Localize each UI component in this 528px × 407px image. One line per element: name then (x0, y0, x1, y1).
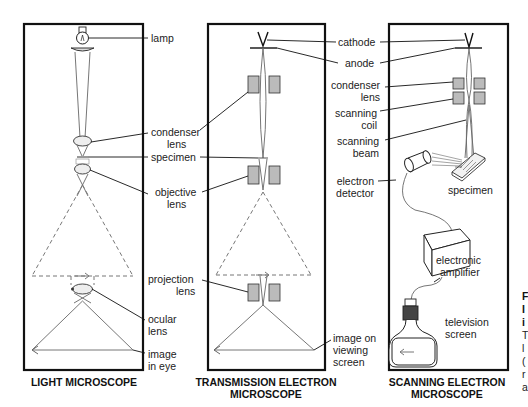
svg-text:(: ( (522, 355, 526, 367)
label-condenser-lens: condenser (151, 126, 201, 138)
electron-detector-icon (403, 150, 462, 173)
svg-text:detector: detector (336, 187, 374, 199)
tem-projection-coil-right (269, 284, 280, 301)
label-scanning-beam: scanning (337, 135, 379, 147)
sem-specimen-icon (452, 153, 485, 181)
sem-cathode-icon (465, 33, 473, 47)
svg-text:T: T (522, 329, 528, 341)
label-ocular-lens: ocular (148, 313, 177, 325)
tem-condenser-coil-left (248, 76, 259, 93)
caption-sem-line1: SCANNING ELECTRON (389, 376, 506, 388)
svg-text:beam: beam (353, 147, 380, 159)
light-microscope-frame (24, 24, 143, 370)
cathode-icon (258, 32, 268, 46)
tem-objective-coil-right (269, 166, 280, 184)
tem-projection-coil-left (248, 284, 259, 301)
tem-frame (208, 24, 325, 370)
label-scanning-coil: scanning (335, 107, 377, 119)
caption-light-microscope: LIGHT MICROSCOPE (31, 376, 137, 388)
svg-text:l: l (522, 342, 524, 354)
label-cathode: cathode (338, 36, 376, 48)
svg-text:lens: lens (167, 138, 186, 150)
svg-text:screen: screen (445, 328, 477, 340)
lamp-icon (71, 27, 94, 51)
microscope-comparison-diagram: lamp condenser lens specimen objective l… (0, 0, 528, 407)
tem-objective-coil-left (248, 166, 259, 184)
label-anode: anode (345, 57, 374, 69)
caption-tem-line2: MICROSCOPE (230, 388, 302, 400)
svg-text:lens: lens (167, 198, 186, 210)
caption-sem-line2: MICROSCOPE (411, 388, 483, 400)
svg-text:lens: lens (361, 91, 380, 103)
svg-text:amplifier: amplifier (440, 266, 480, 278)
label-specimen: specimen (151, 151, 196, 163)
svg-text:i: i (522, 316, 525, 328)
television-screen-icon (389, 299, 437, 367)
label-image-on-viewing-screen: image on (333, 332, 376, 344)
tem-condenser-coil-right (269, 76, 280, 93)
svg-text:lens: lens (176, 285, 195, 297)
ocular-lens-icon (73, 284, 93, 294)
sem-scanning-coil-right (474, 92, 485, 104)
condenser-lens-icon (74, 136, 92, 146)
svg-text:F: F (522, 290, 528, 302)
svg-text:in eye: in eye (148, 360, 176, 372)
cropped-side-text: F I i T l ( r a (522, 290, 528, 393)
svg-text:I: I (522, 303, 525, 315)
sem-scanning-coil-left (453, 92, 464, 104)
svg-text:r: r (522, 368, 526, 380)
label-projection-lens: projection (148, 273, 194, 285)
sem-condenser-coil-left (453, 78, 464, 89)
svg-text:lens: lens (148, 325, 167, 337)
light-microscope-panel: lamp condenser lens specimen objective l… (24, 24, 201, 388)
label-electron-detector: electron (337, 175, 375, 187)
label-sem-condenser-lens: condenser (331, 79, 381, 91)
label-television-screen: television (445, 316, 489, 328)
label-sem-specimen: specimen (448, 184, 493, 196)
label-image-in-eye: image (148, 348, 177, 360)
svg-text:coil: coil (361, 119, 377, 131)
label-electronic-amplifier: electronic (436, 254, 481, 266)
caption-tem-line1: TRANSMISSION ELECTRON (195, 376, 336, 388)
svg-text:viewing: viewing (333, 344, 368, 356)
label-lamp: lamp (151, 32, 174, 44)
svg-text:a: a (522, 381, 528, 393)
sem-condenser-coil-right (474, 78, 485, 89)
label-objective-lens: objective (155, 186, 197, 198)
objective-lens-icon (75, 164, 91, 174)
svg-text:screen: screen (333, 356, 365, 368)
